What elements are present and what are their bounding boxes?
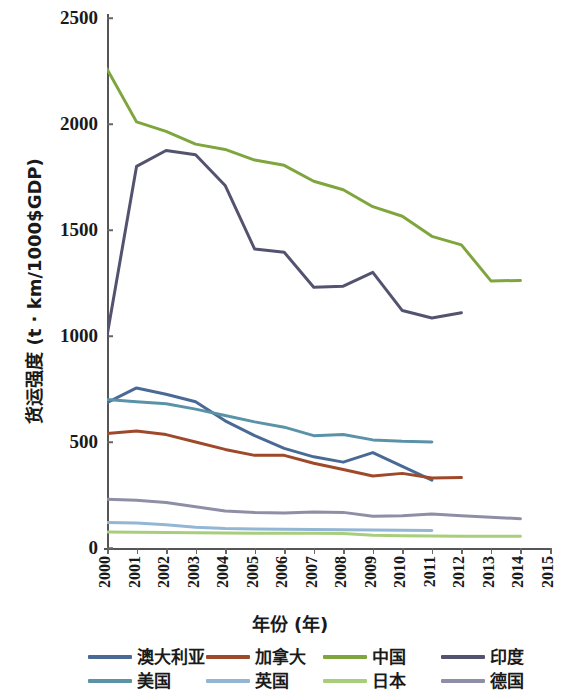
x-tick-label: 2006 — [273, 556, 297, 588]
x-tick-label: 2003 — [185, 556, 209, 588]
x-tick-mark — [255, 548, 257, 554]
y-tick-label: 2000 — [40, 113, 98, 135]
series-line — [107, 431, 461, 478]
legend-color-swatch — [323, 679, 367, 683]
legend-color-swatch — [88, 679, 132, 683]
legend-color-swatch — [206, 679, 250, 683]
y-tick-label: 2500 — [40, 7, 98, 29]
series-lines — [107, 18, 550, 548]
x-tick-label: 2001 — [126, 556, 150, 588]
x-tick-mark — [196, 548, 198, 554]
legend-color-swatch — [441, 679, 485, 683]
x-tick-label: 2010 — [391, 556, 415, 588]
legend-color-swatch — [206, 655, 250, 659]
x-tick-label: 2011 — [421, 556, 445, 587]
x-tick-label: 2000 — [96, 556, 120, 588]
legend-item[interactable]: 德国 — [441, 673, 559, 690]
series-line — [107, 532, 520, 536]
legend-label: 英国 — [255, 673, 289, 690]
y-axis-title: 货运强度 (t · km/1000$GDP) — [20, 126, 46, 456]
legend-label: 印度 — [490, 649, 524, 666]
x-tick-mark — [137, 548, 139, 554]
x-tick-mark — [284, 548, 286, 554]
x-tick-mark — [491, 548, 493, 554]
series-line — [107, 400, 432, 442]
legend-label: 加拿大 — [255, 649, 306, 666]
legend-item[interactable]: 澳大利亚 — [88, 649, 206, 666]
y-tick-label: 1500 — [40, 219, 98, 241]
y-tick-label: 500 — [40, 431, 98, 453]
x-tick-label: 2005 — [244, 556, 268, 588]
legend-label: 日本 — [372, 673, 406, 690]
series-line — [107, 151, 461, 337]
x-tick-label: 2007 — [303, 556, 327, 588]
legend-color-swatch — [441, 655, 485, 659]
legend-item[interactable]: 印度 — [441, 649, 559, 666]
x-tick-label: 2012 — [450, 556, 474, 588]
x-tick-label: 2014 — [509, 556, 533, 588]
legend-label: 澳大利亚 — [137, 649, 205, 666]
series-line — [107, 523, 432, 531]
x-tick-mark — [432, 548, 434, 554]
x-tick-mark — [107, 548, 109, 554]
legend-item[interactable]: 加拿大 — [206, 649, 324, 666]
x-tick-mark — [314, 548, 316, 554]
freight-intensity-line-chart: 货运强度 (t · km/1000$GDP) 05001000150020002… — [0, 0, 580, 693]
x-tick-mark — [343, 548, 345, 554]
x-tick-mark — [166, 548, 168, 554]
x-tick-label: 2008 — [332, 556, 356, 588]
x-tick-label: 2013 — [480, 556, 504, 588]
x-axis-title: 年份 (年) — [0, 610, 580, 636]
legend-item[interactable]: 日本 — [323, 673, 441, 690]
x-tick-mark — [373, 548, 375, 554]
legend-item[interactable]: 中国 — [323, 649, 441, 666]
chart-legend: 澳大利亚加拿大中国印度美国英国日本德国 — [88, 645, 558, 693]
y-tick-label: 0 — [40, 537, 98, 559]
x-tick-label: 2004 — [214, 556, 238, 588]
legend-label: 中国 — [372, 649, 406, 666]
x-tick-mark — [550, 548, 552, 554]
legend-label: 美国 — [137, 673, 171, 690]
plot-area — [107, 18, 550, 548]
x-axis-line — [104, 548, 552, 550]
x-tick-mark — [225, 548, 227, 554]
x-tick-mark — [402, 548, 404, 554]
x-tick-label: 2002 — [155, 556, 179, 588]
legend-color-swatch — [323, 655, 367, 659]
legend-item[interactable]: 美国 — [88, 673, 206, 690]
x-tick-mark — [520, 548, 522, 554]
x-tick-mark — [461, 548, 463, 554]
x-tick-label: 2009 — [362, 556, 386, 588]
legend-color-swatch — [88, 655, 132, 659]
x-tick-label: 2015 — [539, 556, 563, 588]
series-line — [107, 69, 520, 281]
series-line — [107, 499, 520, 519]
legend-item[interactable]: 英国 — [206, 673, 324, 690]
y-tick-label: 1000 — [40, 325, 98, 347]
legend-label: 德国 — [490, 673, 524, 690]
